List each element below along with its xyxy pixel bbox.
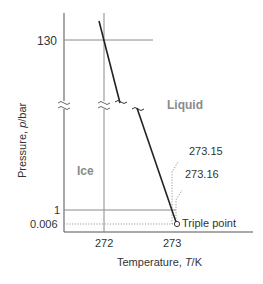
region-liquid-label: Liquid	[167, 99, 203, 111]
y-axis-title: Pressure, p/bar	[16, 103, 28, 178]
y-tick-1: 1	[54, 205, 60, 216]
x-tick-273: 273	[163, 238, 181, 249]
annotation-273-16: 273.16	[185, 169, 219, 180]
x-tick-272: 272	[95, 238, 113, 249]
curve-break-icon-1	[115, 101, 127, 104]
y-tick-0006: 0.006	[30, 219, 58, 230]
triple-point-marker	[174, 221, 179, 226]
region-ice-label: Ice	[77, 165, 94, 177]
melting-curve-upper	[99, 21, 120, 103]
annotation-triple-point: Triple point	[182, 218, 236, 229]
annotation-273-15: 273.15	[189, 146, 223, 157]
x-axis-title: Temperature, T/K	[117, 257, 202, 268]
melting-curve-lower	[137, 108, 176, 222]
y-tick-130: 130	[37, 35, 57, 47]
